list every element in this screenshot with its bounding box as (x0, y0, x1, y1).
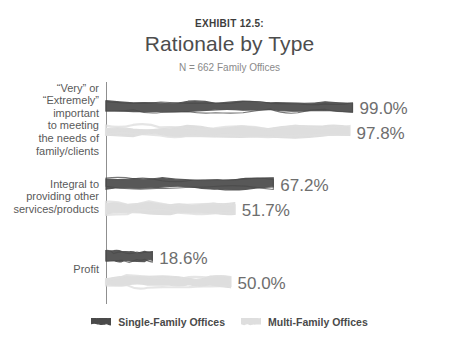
legend-item[interactable]: Single-Family Offices (91, 316, 225, 328)
bar-single-family[interactable] (106, 102, 353, 116)
legend-item[interactable]: Multi-Family Offices (241, 316, 368, 328)
exhibit-label: EXHIBIT 12.5: (0, 18, 459, 29)
value-label: 50.0% (238, 275, 286, 292)
light-swatch (241, 318, 261, 327)
value-label: 99.0% (360, 100, 408, 117)
legend-label: Multi-Family Offices (268, 316, 368, 328)
category-label: Profit (0, 263, 99, 276)
bar-multi-family[interactable] (106, 204, 235, 218)
value-label: 51.7% (242, 202, 290, 219)
value-label: 97.8% (357, 125, 405, 142)
dark-swatch (91, 318, 111, 327)
bar-multi-family[interactable] (106, 277, 231, 291)
chart-title: Rationale by Type (0, 32, 459, 56)
chart-container: EXHIBIT 12.5: Rationale by Type N = 662 … (0, 0, 459, 350)
category-label: “Very” or “Extremely” important to meeti… (0, 82, 99, 158)
chart-legend: Single-Family OfficesMulti-Family Office… (0, 316, 459, 328)
bar-single-family[interactable] (106, 179, 273, 193)
category-label: Integral to providing other services/pro… (0, 178, 99, 216)
bar-single-family[interactable] (106, 252, 152, 266)
bar-multi-family[interactable] (106, 127, 350, 141)
legend-label: Single-Family Offices (118, 316, 225, 328)
chart-subtitle: N = 662 Family Offices (0, 62, 459, 73)
value-label: 67.2% (280, 177, 328, 194)
plot-area: “Very” or “Extremely” important to meeti… (0, 80, 459, 310)
value-label: 18.6% (159, 250, 207, 267)
